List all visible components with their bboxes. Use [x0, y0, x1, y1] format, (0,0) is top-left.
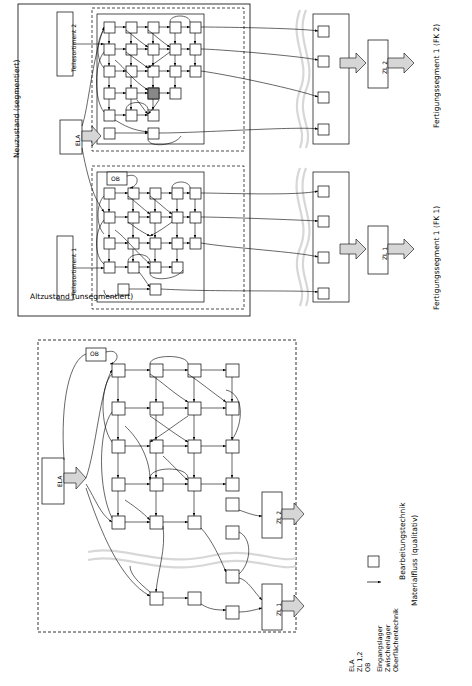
- top-ob-label: OB: [111, 175, 120, 182]
- figure-canvas: Neuzustand (segmentiert) Teilesortiment …: [0, 0, 472, 686]
- top-zl1-label: ZL 1: [381, 247, 388, 260]
- top-zl2-block: [340, 40, 414, 88]
- top-right-label-fk1: Fertigungssegment 1 (FK 1): [432, 206, 441, 310]
- top-right-label-fk2: Fertigungssegment 1 (FK 2): [432, 24, 441, 128]
- legend-abbr-text-zl: Zwischenlager: [384, 625, 392, 672]
- top-zl1-block: [340, 226, 414, 274]
- legend-square-label: Bearbeitungstechnik: [398, 502, 407, 580]
- panel-bottom-title: Altzustand (unsegmentiert): [30, 292, 133, 301]
- top-teilesortiment-2-label: Teilesortiment 2: [70, 24, 77, 72]
- bottom-zl1-label: ZL 1: [275, 603, 282, 616]
- legend-abbr-key-ela: ELA: [348, 660, 356, 672]
- bottom-zl2-label: ZL 2: [275, 511, 282, 524]
- bottom-ela-label: ELA: [56, 476, 63, 487]
- top-zl2-label: ZL 2: [381, 61, 388, 74]
- panel-top-title: Neuzustand (segmentiert): [12, 60, 21, 158]
- legend-abbr-text-ela: Eingangslager: [376, 626, 384, 672]
- legend-square-icon: [368, 556, 379, 567]
- legend-abbr-key-zl: ZL 1,2: [356, 652, 364, 672]
- top-teilesortiment-1-label: Teilesortiment 1: [70, 248, 77, 296]
- legend-arrow-label: Materialfluss (qualitativ): [410, 515, 419, 606]
- bottom-ob-label: OB: [90, 350, 99, 357]
- legend-abbr-text-ob: Oberflächentechnik: [392, 608, 400, 672]
- top-ela-label: ELA: [74, 135, 81, 146]
- legend-abbr-key-ob: OB: [364, 662, 372, 672]
- bottom-ela-block: [42, 458, 86, 504]
- bottom-zl2-block: [262, 492, 304, 538]
- bottom-zl1-block: [262, 584, 304, 630]
